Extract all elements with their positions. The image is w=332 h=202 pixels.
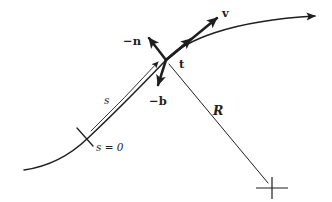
negative-normal-label: −n (123, 34, 142, 48)
arc-origin-tick (77, 128, 93, 146)
arc-length-line (91, 62, 158, 131)
negative-binormal-label: −b (149, 94, 167, 108)
radius-line (169, 64, 268, 183)
figure-svg: v t −n −b R s s = 0 (0, 0, 332, 202)
curve-geometry-figure: v t −n −b R s s = 0 (0, 0, 332, 202)
curvature-center-cross (256, 177, 288, 199)
radius-label: R (212, 103, 223, 118)
velocity-label: v (221, 6, 229, 20)
negative-normal-vector (149, 38, 166, 60)
trajectory-curve (24, 16, 315, 170)
arc-length-label: s (104, 94, 110, 106)
tangent-label: t (179, 57, 185, 71)
arc-origin-label: s = 0 (96, 141, 124, 153)
